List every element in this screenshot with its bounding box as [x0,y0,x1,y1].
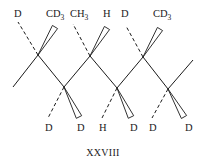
atom-label: CD3 [46,8,65,22]
atom-label: D [77,122,85,133]
atom-label-subscript: 3 [61,13,65,22]
atom-label-subscript: 3 [168,13,172,22]
dashed-bond [73,24,90,56]
atom-label: D [130,122,138,133]
dashed-bond [102,88,117,118]
atom-label: D [121,8,129,19]
structure-caption: XXVIII [86,147,119,158]
atom-label: D [14,8,22,19]
atom-label: D [45,122,53,133]
dashed-bond [48,87,64,118]
atom-label: CD3 [153,8,172,22]
atom-labels-layer: DCD3DDCH3HHDDCD3DD [14,8,193,133]
atom-label: D [185,122,193,133]
atom-label: H [103,8,111,19]
bonds-layer [13,22,193,118]
wedge-bond [64,87,82,118]
chemical-structure-diagram: DCD3DDCH3HHDDCD3DD XXVIII [0,0,205,165]
backbone-chain [13,55,193,89]
dashed-bond [126,26,143,57]
wedge-bond [143,27,163,57]
structure-canvas: DCD3DDCH3HHDDCD3DD XXVIII [0,0,205,165]
wedge-bond [117,88,134,118]
atom-label-subscript: 3 [85,13,89,22]
atom-label: CH3 [70,8,89,22]
atom-label: H [99,122,107,133]
wedge-bond [38,25,58,55]
atom-label: D [149,122,157,133]
wedge-bond [90,26,110,56]
dashed-bond [152,89,168,118]
dashed-bond [18,22,38,55]
wedge-bond [168,89,187,118]
